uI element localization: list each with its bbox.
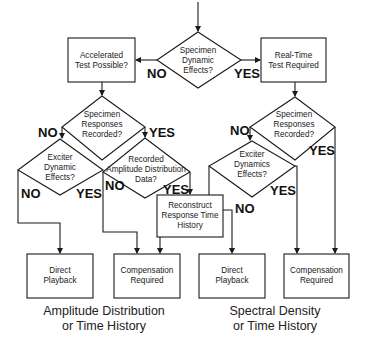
node-line: Responses <box>274 120 315 129</box>
node-line: Recorded <box>128 155 164 164</box>
test-selection-flowchart: Specimen Dynamic Effects? Accelerated Te… <box>0 0 368 345</box>
label-left-exciter-yes: YES <box>76 186 102 201</box>
label-amplitude-yes: YES <box>163 182 189 197</box>
node-line: Direct <box>221 266 243 275</box>
caption-right-line2: or Time History <box>233 319 318 333</box>
label-top-yes: YES <box>234 66 260 81</box>
node-line: Dynamic <box>182 56 214 65</box>
node-line: Recorded? <box>82 130 123 139</box>
label-amplitude-no: NO <box>105 178 125 193</box>
node-line: Required <box>300 276 334 285</box>
node-line: Recorded? <box>274 130 315 139</box>
node-line: Playback <box>43 276 77 285</box>
label-right-exciter-no: NO <box>235 201 255 216</box>
caption-left-line1: Amplitude Distribution <box>43 304 165 318</box>
node-line: Responses <box>82 120 123 129</box>
node-line: Response Time <box>162 211 219 220</box>
node-line: Dynamic <box>44 163 76 172</box>
node-line: Reconstruct <box>168 201 212 210</box>
caption-right-line1: Spectral Density <box>229 304 321 318</box>
process-accelerated-test: Accelerated Test Possible? <box>68 38 135 82</box>
node-line: Exciter <box>239 150 264 159</box>
node-line: Test Possible? <box>75 61 128 70</box>
node-line: Playback <box>215 276 249 285</box>
node-line: Amplitude Distribution <box>106 165 186 174</box>
node-line: Effects? <box>237 170 267 179</box>
caption-left-line2: or Time History <box>62 319 147 333</box>
captions: Amplitude Distribution or Time History S… <box>43 304 321 333</box>
node-line: Data? <box>135 175 157 184</box>
node-line: Test Required <box>268 61 319 70</box>
label-right-exciter-yes: YES <box>270 183 296 198</box>
node-line: History <box>177 221 203 230</box>
label-left-exciter-no: NO <box>21 186 41 201</box>
node-line: Real-Time <box>275 51 313 60</box>
node-line: Required <box>130 276 164 285</box>
label-left-resp-no: NO <box>38 125 58 140</box>
node-line: Direct <box>49 266 71 275</box>
node-line: Dynamics <box>234 160 270 169</box>
node-line: Compensation <box>290 266 343 275</box>
process-real-time-test: Real-Time Test Required <box>261 38 326 82</box>
label-right-resp-no: NO <box>230 123 250 138</box>
node-line: Specimen <box>180 46 217 55</box>
process-reconstruct-time-history: Reconstruct Response Time History <box>157 195 223 237</box>
terminal-right-direct-playback: Direct Playback <box>199 254 265 298</box>
edge-right-exciter-yes <box>295 166 297 253</box>
node-line: Specimen <box>276 110 313 119</box>
label-right-resp-yes: YES <box>309 143 335 158</box>
node-line: Specimen <box>84 110 121 119</box>
node-line: Exciter <box>47 153 72 162</box>
label-top-no: NO <box>147 66 167 81</box>
node-line: Effects? <box>45 173 75 182</box>
decision-specimen-dynamic-effects: Specimen Dynamic Effects? <box>157 32 241 88</box>
label-left-resp-yes: YES <box>149 125 175 140</box>
terminal-left-direct-playback: Direct Playback <box>27 254 93 298</box>
terminal-left-compensation-required: Compensation Required <box>114 254 180 298</box>
node-line: Accelerated <box>80 51 124 60</box>
node-line: Effects? <box>183 66 213 75</box>
node-line: Compensation <box>121 266 174 275</box>
terminal-right-compensation-required: Compensation Required <box>284 254 349 298</box>
